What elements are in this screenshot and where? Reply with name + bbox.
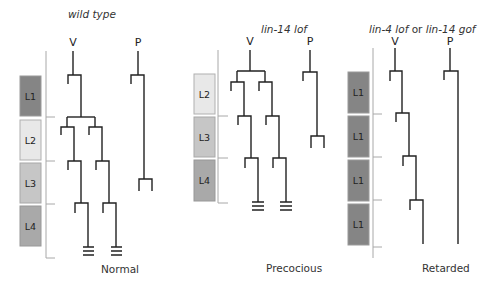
panel-caption: Precocious	[266, 262, 322, 274]
time-axis	[373, 48, 382, 258]
stage-box-l4: L4	[20, 206, 41, 246]
stage-label: L1	[353, 219, 364, 230]
stage-label: L3	[199, 132, 210, 143]
stage-label: L2	[25, 135, 36, 146]
panel-caption: Normal	[101, 263, 139, 275]
p-cell-label: P	[307, 35, 314, 48]
stage-label: L3	[25, 178, 36, 189]
time-axis	[218, 50, 228, 203]
p-cell-lineage	[131, 51, 152, 191]
v-cell-lineage	[61, 51, 122, 255]
panel-wild-type: wild type V P L1 L2 L3 L4	[20, 8, 152, 275]
v-cell-label: V	[246, 35, 254, 48]
panel-title: lin-14 lof	[261, 23, 309, 35]
stage-box-l2: L2	[194, 74, 215, 114]
panel-title: lin-4 lof or lin-14 gof	[369, 23, 478, 35]
v-cell-lineage	[231, 50, 292, 210]
stage-box-l1: L1	[348, 160, 369, 201]
cell-lineage-diagram: wild type V P L1 L2 L3 L4	[0, 0, 483, 290]
stage-label: L4	[199, 175, 210, 186]
p-cell-lineage	[444, 48, 458, 244]
p-cell-label: P	[447, 35, 454, 48]
stage-box-l2: L2	[20, 120, 41, 160]
v-cell-lineage	[390, 48, 423, 244]
p-cell-label: P	[135, 36, 142, 49]
panel-retarded: lin-4 lof or lin-14 gof V P L1 L1 L1 L1	[348, 23, 478, 274]
stage-label: L1	[353, 87, 364, 98]
p-cell-lineage	[303, 50, 324, 148]
stage-box-l1: L1	[348, 72, 369, 113]
stage-label: L4	[25, 221, 36, 232]
stage-label: L1	[25, 91, 36, 102]
stage-box-l3: L3	[194, 117, 215, 157]
v-cell-label: V	[391, 35, 399, 48]
time-axis	[46, 51, 55, 258]
stage-box-l1: L1	[20, 76, 41, 116]
stage-box-l4: L4	[194, 160, 215, 201]
stage-box-l1: L1	[348, 116, 369, 157]
stage-label: L1	[353, 175, 364, 186]
panel-title: wild type	[68, 8, 116, 20]
stage-box-l3: L3	[20, 163, 41, 203]
panel-caption: Retarded	[422, 262, 470, 274]
v-cell-label: V	[69, 36, 77, 49]
stage-box-l1: L1	[348, 204, 369, 245]
stage-label: L2	[199, 89, 210, 100]
panel-lin-14-lof: lin-14 lof V P L2 L3 L4	[194, 23, 324, 274]
stage-label: L1	[353, 131, 364, 142]
